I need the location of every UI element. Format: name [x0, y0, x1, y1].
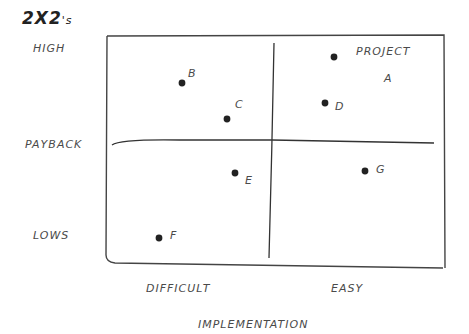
y-axis-low-label: LOWS	[33, 229, 69, 242]
point-g-label: G	[376, 163, 385, 176]
point-e-label: E	[245, 174, 252, 187]
x-axis-right-label: EASY	[331, 282, 363, 295]
point-a	[331, 54, 338, 61]
point-a-label: PROJECT	[356, 45, 411, 58]
x-axis-left-label: DIFFICULT	[146, 282, 210, 295]
point-f-label: F	[170, 229, 176, 242]
point-d-label: D	[335, 100, 343, 113]
horizontal-divider	[112, 140, 434, 145]
point-b-label: B	[188, 67, 196, 80]
x-axis-label: IMPLEMENTATION	[198, 318, 308, 331]
point-e	[232, 170, 239, 177]
frame-border	[106, 35, 445, 268]
point-a-label-2: A	[384, 72, 392, 85]
point-d	[322, 100, 329, 107]
point-f	[156, 235, 163, 242]
point-g	[362, 168, 369, 175]
point-c	[224, 116, 231, 123]
point-c-label: C	[235, 98, 243, 111]
y-axis-high-label: HIGH	[33, 42, 65, 55]
point-b	[179, 80, 186, 87]
vertical-divider	[269, 43, 274, 258]
y-axis-label: PAYBACK	[25, 138, 82, 151]
